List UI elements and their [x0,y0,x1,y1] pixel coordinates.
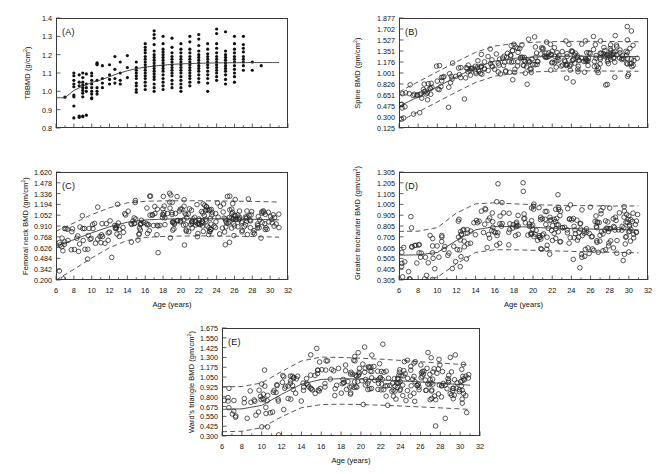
x-tick-label: 6 [220,442,224,451]
y-tick-label: 0.425 [188,422,218,431]
x-tick-label: 16 [317,442,325,451]
y-tick-label: 0.705 [365,232,395,241]
x-tick-label: 6 [397,286,401,295]
y-tick-label: 0.342 [22,265,52,274]
panel-label-a: (A) [62,27,75,37]
y-axis-label-text: Spine BMD (gm/cm [353,43,362,109]
x-tick-label: 16 [491,286,499,295]
x-tick-label: 32 [644,286,652,295]
x-tick-label: 28 [606,286,614,295]
x-tick-label: 26 [586,286,594,295]
y-tick-label: 1.105 [365,189,395,198]
y-axis-label-tail: ) [21,177,30,180]
plot-graphics-c [0,0,671,474]
y-tick-label: 1.176 [365,58,395,67]
y-tick-label: 1.0 [26,87,52,96]
y-tick-label: 0.905 [365,211,395,220]
y-tick-label: 0.910 [22,222,52,231]
x-tick-label: 30 [266,286,274,295]
plot-area-e [222,328,480,436]
x-tick-label: 14 [297,442,305,451]
plot-graphics-d [0,0,671,474]
y-tick-label: 0.675 [188,402,218,411]
y-axis-label-c: Femoral neck BMD (gm/cm2) [20,172,30,280]
plot-graphics-e [0,0,671,474]
y-tick-label: 1.4 [26,14,52,23]
plot-area-b [399,18,648,128]
y-tick-label: 0.826 [365,79,395,88]
y-tick-label: 0.475 [365,102,395,111]
y-tick-label: 1.050 [188,373,218,382]
x-tick-label: 10 [88,286,96,295]
y-tick-label: 1.305 [365,168,395,177]
panel-label-b: (B) [405,27,418,37]
x-tick-label: 16 [141,286,149,295]
y-tick-label: 0.768 [22,232,52,241]
x-tick-label: 8 [72,286,76,295]
y-tick-label: 0.505 [365,254,395,263]
y-tick-label: 1.052 [22,211,52,220]
x-axis-label-d: Age (years) [399,300,648,309]
x-tick-label: 28 [248,286,256,295]
y-tick-label: 0.651 [365,90,395,99]
y-tick-label: 1.478 [22,178,52,187]
x-tick-label: 26 [416,442,424,451]
y-tick-label: 1.702 [365,24,395,33]
y-tick-label: 1.001 [365,69,395,78]
x-tick-label: 8 [416,286,420,295]
x-tick-label: 22 [195,286,203,295]
x-tick-label: 10 [258,442,266,451]
y-axis-label-exponent: 2 [352,168,358,171]
y-axis-label-e: Ward's triangle BMD (gm/cm2) [186,328,196,436]
panel-label-c: (C) [62,181,75,191]
y-tick-label: 1.3 [26,32,52,41]
y-tick-label: 1.336 [22,189,52,198]
y-axis-label-text: TBBMD (g/cm [23,52,32,100]
y-tick-label: 1.877 [365,14,395,23]
x-tick-label: 32 [476,442,484,451]
x-tick-label: 6 [54,286,58,295]
plot-area-c [56,172,288,280]
y-tick-label: 0.405 [365,265,395,274]
y-axis-label-tail: ) [187,331,196,334]
x-tick-label: 10 [433,286,441,295]
y-tick-label: 0.300 [365,113,395,122]
x-tick-label: 28 [436,442,444,451]
y-tick-label: 0.626 [22,243,52,252]
y-tick-label: 1.550 [188,333,218,342]
y-tick-label: 1.2 [26,50,52,59]
panel-e: (E)Ward's triangle BMD (gm/cm2)0.3000.42… [0,0,671,474]
y-tick-label: 1.175 [188,363,218,372]
x-tick-label: 30 [625,286,633,295]
y-tick-label: 1.005 [365,200,395,209]
y-tick-label: 1.425 [188,343,218,352]
y-tick-label: 0.484 [22,254,52,263]
x-tick-label: 26 [230,286,238,295]
x-tick-label: 20 [177,286,185,295]
y-tick-label: 1.620 [22,168,52,177]
panel-label-e: (E) [228,337,241,347]
y-tick-label: 0.305 [365,276,395,285]
y-tick-label: 0.125 [365,124,395,133]
y-axis-label-exponent: 2 [186,333,192,336]
x-tick-label: 18 [159,286,167,295]
panel-b: (B)Spine BMD (gm/cm2)0.1250.3000.4750.65… [0,0,671,474]
x-tick-label: 24 [212,286,220,295]
y-tick-label: 0.605 [365,243,395,252]
y-tick-label: 0.200 [22,276,52,285]
x-tick-label: 20 [357,442,365,451]
panel-d: (D)Greater trochanter BMD (gm/cm2)0.3050… [0,0,671,474]
x-axis-label-c: Age (years) [56,300,288,309]
x-tick-label: 8 [240,442,244,451]
y-axis-label-tail: ) [353,166,362,169]
x-tick-label: 24 [396,442,404,451]
y-axis-label-exponent: 2 [352,40,358,43]
y-tick-label: 1.527 [365,35,395,44]
y-tick-label: 0.300 [188,432,218,441]
x-tick-label: 18 [510,286,518,295]
y-axis-label-b: Spine BMD (gm/cm2) [352,18,362,128]
x-tick-label: 32 [284,286,292,295]
y-tick-label: 1.675 [188,324,218,333]
y-axis-label-exponent: 2 [20,180,26,183]
plot-graphics-b [0,0,671,474]
